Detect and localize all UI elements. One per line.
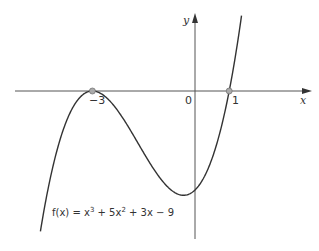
x-tick-label-neg3: −3: [89, 94, 105, 107]
y-axis-label: y: [182, 14, 190, 27]
y-axis-arrow-icon: [192, 13, 198, 23]
function-graph: y x −3 0 1 f(x) = x3 + 5x2 + 3x − 9: [0, 0, 319, 251]
x-axis-label: x: [300, 94, 307, 107]
function-curve: [40, 16, 241, 232]
equation-label: f(x) = x3 + 5x2 + 3x − 9: [52, 206, 174, 218]
x-tick-label-1: 1: [232, 94, 239, 107]
x-tick-label-0: 0: [185, 94, 192, 107]
